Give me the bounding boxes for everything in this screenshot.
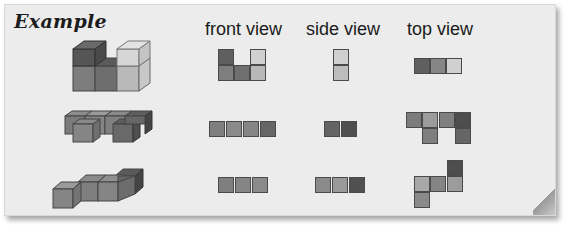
side-view-label: side view [306, 19, 380, 40]
cube-figure-1 [70, 38, 155, 96]
example-title: Example [14, 10, 107, 32]
page-curl [533, 185, 555, 215]
top-view-label: top view [407, 19, 473, 40]
cube-figure-2 [60, 108, 160, 154]
front-view-label: front view [205, 19, 282, 40]
cube-figure-3 [45, 166, 155, 216]
